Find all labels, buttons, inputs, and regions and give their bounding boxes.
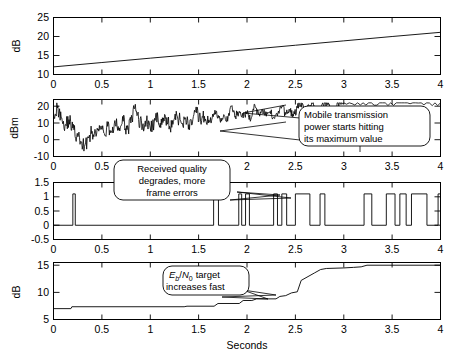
panel-1-frame xyxy=(54,18,441,75)
panel-3-ytick-0: -0.5 xyxy=(31,233,49,245)
panel-2-ytick-1: 0 xyxy=(43,133,49,145)
annotation-ebn0-target[interactable]: Eb/N0target increases fast xyxy=(163,266,276,299)
panel-2-xtick-0: 0 xyxy=(51,160,57,172)
annotation-max-power-line-3: its maximum value xyxy=(304,133,383,144)
panel-4-xtick-8: 4 xyxy=(438,323,444,335)
panel-2-xtick-4: 2 xyxy=(244,160,250,172)
panel-3-ytick-3: 1 xyxy=(43,190,49,202)
panel-1-xtick-0: 0 xyxy=(51,78,57,90)
annotation-ebn0-line-2: increases fast xyxy=(166,281,225,292)
panel-2-ytick-3: 20 xyxy=(37,100,49,112)
panel-3-frame xyxy=(54,183,441,240)
panel-1-xtick-3: 1.5 xyxy=(191,78,206,90)
annotation-max-power-line-2: power starts hitting xyxy=(304,121,384,132)
panel-3-ytick-2: 0.5 xyxy=(34,205,49,217)
panel-3-xtick-0: 0 xyxy=(51,243,57,255)
panel-4-ylabel: dB xyxy=(10,286,22,299)
annotation-max-power-leader-2 xyxy=(220,122,300,140)
panel-1-ytick-1: 15 xyxy=(37,49,49,61)
panel-3-ytick-4: 1.5 xyxy=(34,176,49,188)
panel-1-ytick-2: 20 xyxy=(37,30,49,42)
panel-1-ylabel: dB xyxy=(10,40,22,53)
panel-3-xtick-3: 1.5 xyxy=(191,243,206,255)
panel-1-ytick-3: 25 xyxy=(37,11,49,23)
panel-2-ytick-2: 10 xyxy=(37,117,49,129)
panel-4-ytick-2: 15 xyxy=(37,259,49,271)
panel-2-xtick-6: 3 xyxy=(341,160,347,172)
panel-4-xtick-0: 0 xyxy=(51,323,57,335)
panel-4-xtick-5: 2.5 xyxy=(288,323,303,335)
panel-3-xtick-4: 2 xyxy=(244,243,250,255)
multi-panel-timeseries-figure: 25 20 15 10 dB 0 0.5 1 1.5 2 2.5 3 3.5 4 xyxy=(0,0,457,363)
panel-3-xtick-8: 4 xyxy=(438,243,444,255)
panel-1-xtick-7: 3.5 xyxy=(385,78,400,90)
annotation-frame-errors[interactable]: Received quality degrades, more frame er… xyxy=(114,160,291,200)
annotation-frame-errors-line-3: frame errors xyxy=(146,187,198,198)
panel-3-xtick-1: 0.5 xyxy=(95,243,110,255)
panel-3-xtick-5: 2.5 xyxy=(288,243,303,255)
ebn0-target-word: target xyxy=(196,269,221,280)
panel-1-xtick-4: 2 xyxy=(244,78,250,90)
panel-1-xtick-1: 0.5 xyxy=(95,78,110,90)
panel-1-x-ticks xyxy=(102,18,392,75)
figure-xlabel: Seconds xyxy=(227,339,268,351)
panel-4-xtick-7: 3.5 xyxy=(385,323,400,335)
panel-1-y-ticks xyxy=(54,18,441,75)
panel-1-ytick-0: 10 xyxy=(37,68,49,80)
panel-1-xtick-6: 3 xyxy=(341,78,347,90)
panel-3-xtick-2: 1 xyxy=(147,243,153,255)
panel-4-xtick-2: 1 xyxy=(147,323,153,335)
panel-3-y-ticks xyxy=(54,183,441,240)
annotation-frame-errors-line-2: degrades, more xyxy=(139,175,206,186)
annotation-max-power[interactable]: Mobile transmission power starts hitting… xyxy=(220,105,430,152)
panel-2-xtick-8: 4 xyxy=(438,160,444,172)
panel-1-xtick-8: 4 xyxy=(438,78,444,90)
annotation-max-power-line-1: Mobile transmission xyxy=(304,109,388,120)
panel-1-path-loss: 25 20 15 10 dB 0 0.5 1 1.5 2 2.5 3 3.5 4 xyxy=(10,11,444,90)
panel-2-ytick-0: -10 xyxy=(34,150,49,162)
panel-2-xtick-5: 2.5 xyxy=(288,160,303,172)
panel-3-xtick-6: 3 xyxy=(341,243,347,255)
panel-4-ytick-1: 10 xyxy=(37,286,49,298)
panel-4-xtick-4: 2 xyxy=(244,323,250,335)
panel-1-trace xyxy=(54,32,441,67)
panel-4-xtick-3: 1.5 xyxy=(191,323,206,335)
panel-1-xtick-2: 1 xyxy=(147,78,153,90)
panel-2-xtick-1: 0.5 xyxy=(95,160,110,172)
panel-4-xtick-6: 3 xyxy=(341,323,347,335)
panel-3-frame-errors: 1.5 1 0.5 0 -0.5 0 0.5 1 1.5 2 2.5 3 3.5… xyxy=(31,176,444,255)
panel-4-xtick-1: 0.5 xyxy=(95,323,110,335)
panel-2-xtick-7: 3.5 xyxy=(385,160,400,172)
panel-4-ytick-0: 5 xyxy=(43,313,49,325)
panel-2-ylabel: dBm xyxy=(8,117,20,139)
annotation-frame-errors-line-1: Received quality xyxy=(137,163,207,174)
figure-root: 25 20 15 10 dB 0 0.5 1 1.5 2 2.5 3 3.5 4 xyxy=(0,0,457,363)
panel-3-ytick-1: 0 xyxy=(43,219,49,231)
panel-3-xtick-7: 3.5 xyxy=(385,243,400,255)
panel-1-xtick-5: 2.5 xyxy=(288,78,303,90)
